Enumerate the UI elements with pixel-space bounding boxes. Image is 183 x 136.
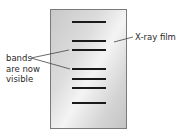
bands-label-line-1: bands — [6, 53, 40, 64]
film-label: X-ray film — [135, 32, 176, 43]
bands-label-line-2: are now — [6, 64, 40, 75]
bands-label: bands are now visible — [6, 53, 40, 85]
bands-label-line-3: visible — [6, 74, 40, 85]
